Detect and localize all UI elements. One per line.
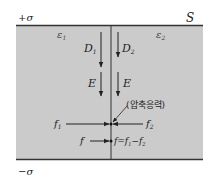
compressive-stress-label: (압축응력) — [126, 99, 165, 110]
boundary-point-2 — [110, 140, 113, 143]
bottom-charge-label: −σ — [18, 166, 34, 177]
boundary-point-1 — [110, 123, 113, 126]
E-right-label: E — [122, 77, 131, 90]
top-charge-label: +σ — [18, 12, 34, 23]
dielectric-boundary-diagram: +σ S −σ ε1 ε2 D1 D2 E E (압축응력) f1 f2 f f… — [0, 0, 211, 179]
E-left-label: E — [87, 77, 96, 90]
dielectric-region — [16, 25, 203, 160]
surface-label: S — [186, 11, 194, 25]
